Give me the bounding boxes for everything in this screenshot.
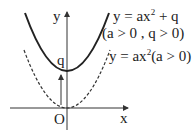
y-axis-label: y <box>53 9 61 24</box>
origin-label: O <box>54 112 65 127</box>
solid-curve-condition: (a > 0 , q > 0) <box>102 26 184 41</box>
x-axis-label: x <box>120 111 128 126</box>
vertex-q-label: q <box>57 53 65 68</box>
dashed-curve-equation: y = ax2(a > 0) <box>109 49 191 64</box>
solid-curve-equation: y = ax2 + q <box>113 9 179 24</box>
